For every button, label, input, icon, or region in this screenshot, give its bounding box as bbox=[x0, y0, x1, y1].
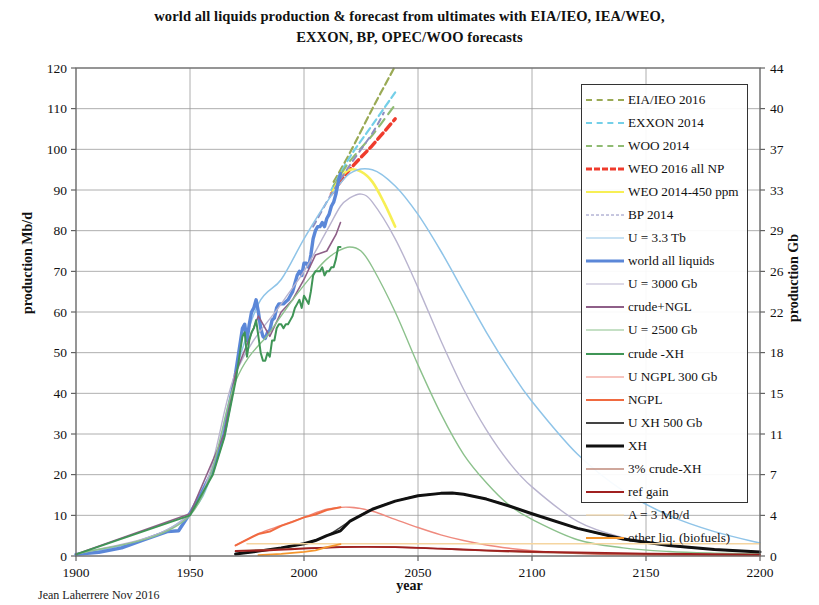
legend-swatch-icon bbox=[586, 463, 624, 475]
legend-swatch-icon bbox=[586, 278, 624, 290]
legend-swatch-icon bbox=[586, 532, 624, 544]
legend-label: U NGPL 300 Gb bbox=[628, 369, 717, 385]
y-tick-label-right: 37 bbox=[770, 142, 784, 157]
y-tick-label-right: 29 bbox=[770, 223, 784, 238]
legend-item[interactable]: EIA/IEO 2016 bbox=[582, 88, 747, 111]
legend-label: WOO 2014 bbox=[628, 138, 689, 154]
y-tick-label-right: 18 bbox=[770, 345, 784, 360]
legend-swatch-icon bbox=[586, 417, 624, 429]
legend-swatch-icon bbox=[586, 94, 624, 106]
legend-label: U XH 500 Gb bbox=[628, 415, 702, 431]
legend-label: 3% crude-XH bbox=[628, 461, 702, 477]
y-tick-label-left: 70 bbox=[54, 264, 68, 279]
legend-swatch-icon bbox=[586, 440, 624, 452]
legend-item[interactable]: WOO 2014 bbox=[582, 134, 747, 157]
y-tick-label-left: 80 bbox=[54, 223, 68, 238]
series-line bbox=[334, 66, 396, 182]
legend-item[interactable]: U XH 500 Gb bbox=[582, 411, 747, 434]
y-tick-label-left: 40 bbox=[54, 386, 68, 401]
legend-swatch-icon bbox=[586, 255, 624, 267]
y-tick-label-right: 15 bbox=[770, 386, 784, 401]
legend-item[interactable]: WEO 2014-450 ppm bbox=[582, 180, 747, 203]
legend-item[interactable]: U = 3.3 Tb bbox=[582, 227, 747, 250]
legend-item[interactable]: BP 2014 bbox=[582, 203, 747, 226]
legend-item[interactable]: crude+NGL bbox=[582, 296, 747, 319]
x-tick-label: 2200 bbox=[747, 565, 774, 580]
x-tick-label: 2100 bbox=[519, 565, 546, 580]
legend-label: U = 2500 Gb bbox=[628, 322, 697, 338]
y-tick-label-right: 22 bbox=[770, 305, 784, 320]
legend-label: U = 3.3 Tb bbox=[628, 230, 686, 246]
legend-item[interactable]: EXXON 2014 bbox=[582, 111, 747, 134]
legend-item[interactable]: U = 2500 Gb bbox=[582, 319, 747, 342]
legend-label: crude+NGL bbox=[628, 299, 692, 315]
y-tick-label-right: 7 bbox=[770, 467, 777, 482]
y-tick-label-left: 30 bbox=[54, 427, 68, 442]
legend-swatch-icon bbox=[586, 371, 624, 383]
y-tick-label-left: 90 bbox=[54, 183, 68, 198]
legend-label: WEO 2016 all NP bbox=[628, 161, 724, 177]
series-line bbox=[76, 247, 340, 554]
y-tick-label-right: 40 bbox=[770, 101, 784, 116]
legend-item[interactable]: world all liquids bbox=[582, 250, 747, 273]
chart-legend: EIA/IEO 2016EXXON 2014WOO 2014WEO 2016 a… bbox=[581, 84, 748, 503]
y-tick-label-left: 0 bbox=[60, 549, 67, 564]
legend-label: A = 3 Mb/d bbox=[628, 507, 689, 523]
legend-swatch-icon bbox=[586, 232, 624, 244]
legend-label: WEO 2014-450 ppm bbox=[628, 184, 739, 200]
legend-swatch-icon bbox=[586, 140, 624, 152]
y-tick-label-left: 50 bbox=[54, 345, 68, 360]
legend-label: EXXON 2014 bbox=[628, 115, 704, 131]
legend-item[interactable]: NGPL bbox=[582, 388, 747, 411]
y-tick-label-left: 60 bbox=[54, 305, 68, 320]
y-tick-label-right: 0 bbox=[770, 549, 777, 564]
legend-label: NGPL bbox=[628, 392, 662, 408]
legend-label: XH bbox=[628, 438, 647, 454]
legend-swatch-icon bbox=[586, 486, 624, 498]
legend-swatch-icon bbox=[586, 348, 624, 360]
legend-swatch-icon bbox=[586, 324, 624, 336]
legend-item[interactable]: U = 3000 Gb bbox=[582, 273, 747, 296]
y-tick-label-right: 4 bbox=[770, 508, 777, 523]
legend-swatch-icon bbox=[586, 394, 624, 406]
legend-item[interactable]: U NGPL 300 Gb bbox=[582, 365, 747, 388]
x-tick-label: 2000 bbox=[291, 565, 318, 580]
legend-swatch-icon bbox=[586, 117, 624, 129]
legend-item[interactable]: XH bbox=[582, 434, 747, 457]
series-line bbox=[236, 507, 341, 545]
y-tick-label-right: 11 bbox=[770, 427, 783, 442]
y-tick-label-left: 100 bbox=[47, 142, 68, 157]
y-tick-label-left: 110 bbox=[47, 101, 67, 116]
legend-swatch-icon bbox=[586, 509, 624, 521]
legend-swatch-icon bbox=[586, 163, 624, 175]
y-tick-label-left: 120 bbox=[47, 61, 68, 76]
legend-swatch-icon bbox=[586, 301, 624, 313]
y-tick-label-right: 33 bbox=[770, 183, 784, 198]
x-tick-label: 1900 bbox=[63, 565, 90, 580]
legend-item[interactable]: A = 3 Mb/d bbox=[582, 504, 747, 527]
x-tick-label: 2050 bbox=[405, 565, 432, 580]
legend-label: other liq. (biofuels) bbox=[628, 530, 730, 546]
legend-label: U = 3000 Gb bbox=[628, 276, 697, 292]
legend-item[interactable]: crude -XH bbox=[582, 342, 747, 365]
legend-label: world all liquids bbox=[628, 253, 714, 269]
x-tick-label: 1950 bbox=[177, 565, 204, 580]
legend-label: EIA/IEO 2016 bbox=[628, 92, 705, 108]
chart-page: world all liquids production & forecast … bbox=[0, 0, 819, 605]
legend-item[interactable]: 3% crude-XH bbox=[582, 458, 747, 481]
y-tick-label-left: 10 bbox=[54, 508, 68, 523]
y-tick-label-right: 26 bbox=[770, 264, 784, 279]
legend-item[interactable]: ref gain bbox=[582, 481, 747, 504]
legend-swatch-icon bbox=[586, 209, 624, 221]
y-tick-label-right: 44 bbox=[770, 61, 784, 76]
legend-item[interactable]: other liq. (biofuels) bbox=[582, 527, 747, 550]
legend-swatch-icon bbox=[586, 186, 624, 198]
legend-label: crude -XH bbox=[628, 346, 684, 362]
y-tick-label-left: 20 bbox=[54, 467, 68, 482]
x-tick-label: 2150 bbox=[633, 565, 660, 580]
legend-item[interactable]: WEO 2016 all NP bbox=[582, 157, 747, 180]
legend-label: ref gain bbox=[628, 484, 669, 500]
legend-label: BP 2014 bbox=[628, 207, 673, 223]
